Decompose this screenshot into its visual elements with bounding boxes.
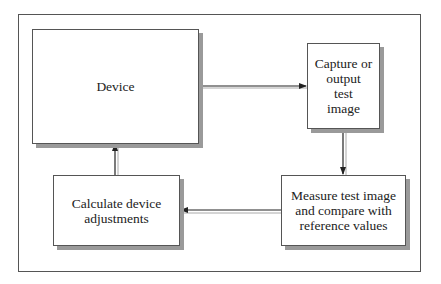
node-measure: Measure test image and compare with refe… (281, 175, 406, 246)
node-measure-label: Measure test image and compare with refe… (291, 188, 396, 233)
node-capture: Capture or output test image (307, 43, 380, 129)
arrow-measure-to-calculate (181, 210, 281, 213)
arrow-device-to-capture (199, 86, 307, 88)
node-capture-label: Capture or output test image (315, 56, 372, 116)
node-device-label: Device (96, 79, 134, 94)
node-device: Device (32, 29, 199, 144)
arrow-capture-to-measure (343, 129, 346, 175)
node-calculate-label: Calculate device adjustments (72, 196, 162, 226)
node-calculate: Calculate device adjustments (53, 175, 180, 246)
arrow-calculate-to-device (115, 144, 118, 175)
